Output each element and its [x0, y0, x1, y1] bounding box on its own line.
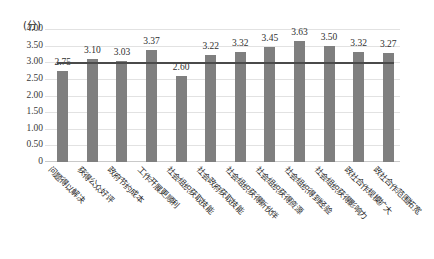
bar — [383, 53, 394, 162]
y-axis-tick-label: 3.00 — [3, 58, 43, 68]
gridline — [45, 145, 400, 146]
bar — [264, 47, 275, 162]
bar — [57, 71, 68, 162]
bar — [353, 52, 364, 162]
bar-value-label: 3.03 — [102, 48, 142, 58]
x-axis-baseline — [45, 161, 400, 162]
bar — [176, 76, 187, 162]
gridline — [45, 112, 400, 113]
bar — [205, 55, 216, 162]
bar-value-label: 3.37 — [132, 37, 172, 47]
y-axis-tick-label: 0 — [3, 157, 43, 167]
y-axis-tick-label: 3.50 — [3, 41, 43, 51]
y-axis-tick-label: 1.00 — [3, 124, 43, 134]
x-axis-category-labels: 问题得以解决获得公众好评政府节约成本工作开展更顺利社会组织获取技能社会政府获取技… — [45, 163, 405, 259]
gridline — [45, 29, 400, 30]
y-axis-tick-label: 0.50 — [3, 141, 43, 151]
bar — [146, 50, 157, 162]
bar-value-label: 3.27 — [368, 40, 408, 50]
plot-area: 2.753.103.033.372.603.223.323.453.633.50… — [45, 29, 400, 162]
gridline — [45, 129, 400, 130]
gridline — [45, 96, 400, 97]
gridline — [45, 79, 400, 80]
y-axis-tick-label: 2.50 — [3, 74, 43, 84]
bar — [294, 41, 305, 162]
bar — [235, 52, 246, 162]
reference-line — [57, 62, 393, 64]
bar — [116, 61, 127, 162]
y-axis: 4.003.503.002.502.001.501.000.500 — [0, 0, 43, 259]
y-axis-tick-label: 1.50 — [3, 107, 43, 117]
x-axis-tick-label: 社会组织获得影响力 — [313, 163, 371, 221]
y-axis-tick-label: 2.00 — [3, 91, 43, 101]
y-axis-tick-label: 4.00 — [3, 24, 43, 34]
bar-chart: (分) 4.003.503.002.502.001.501.000.500 2.… — [0, 0, 434, 259]
bar — [87, 59, 98, 162]
